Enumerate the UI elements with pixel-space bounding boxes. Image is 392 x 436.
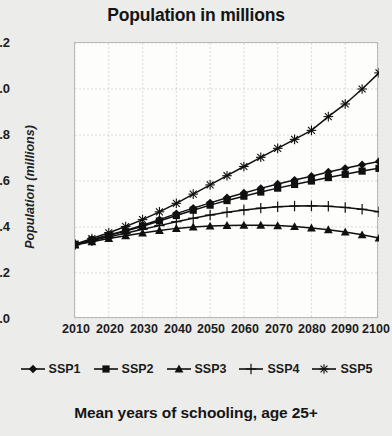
asterisk-marker-icon: [121, 222, 131, 232]
plus-marker-icon: [306, 201, 316, 211]
legend-label: SSP5: [340, 362, 372, 376]
legend-item-ssp3[interactable]: SSP3: [166, 362, 227, 376]
diamond-marker-icon: [20, 362, 46, 376]
asterisk-marker-icon: [188, 189, 198, 199]
y-axis-label: Population (millions): [23, 87, 37, 287]
asterisk-marker-icon: [155, 207, 165, 217]
square-marker-icon: [257, 188, 264, 195]
legend-label: SSP3: [195, 362, 227, 376]
asterisk-marker-icon: [324, 112, 334, 122]
plus-marker-icon: [222, 207, 232, 217]
y-tick-0: 0.0: [0, 311, 10, 326]
legend-item-ssp2[interactable]: SSP2: [93, 362, 154, 376]
asterisk-marker-icon: [256, 153, 266, 163]
legend-label: SSP2: [122, 362, 154, 376]
asterisk-marker-icon: [104, 228, 114, 238]
square-marker-icon: [240, 193, 247, 200]
asterisk-marker-icon: [205, 180, 215, 190]
square-marker-icon: [207, 202, 214, 209]
asterisk-marker-icon: [290, 135, 300, 145]
square-marker-icon: [102, 365, 109, 372]
legend-item-ssp1[interactable]: SSP1: [20, 362, 81, 376]
plot-area: [74, 42, 378, 318]
plus-marker-icon: [340, 202, 350, 212]
plus-marker-icon: [188, 213, 198, 223]
square-marker-icon: [223, 197, 230, 204]
square-marker-icon: [274, 185, 281, 192]
plus-marker-icon: [205, 210, 215, 220]
chart-caption: Mean years of schooling, age 25+: [0, 404, 392, 422]
square-marker-icon: [291, 181, 298, 188]
square-marker-icon: [375, 165, 379, 172]
data-series-layer: [75, 43, 379, 319]
y-tick-6: 1.2: [0, 35, 10, 50]
y-tick-5: 1.0: [0, 81, 10, 96]
asterisk-marker-icon: [311, 362, 337, 376]
plus-marker-icon: [238, 362, 264, 376]
legend-item-ssp5[interactable]: SSP5: [311, 362, 372, 376]
legend-item-ssp4[interactable]: SSP4: [238, 362, 299, 376]
square-marker-icon: [359, 168, 366, 175]
square-marker-icon: [308, 177, 315, 184]
plus-marker-icon: [289, 201, 299, 211]
triangle-marker-icon: [166, 362, 192, 376]
asterisk-marker-icon: [172, 199, 182, 209]
y-tick-4: 0.8: [0, 127, 10, 142]
legend: SSP1SSP2SSP3SSP4SSP5: [0, 362, 392, 376]
y-tick-1: 0.2: [0, 265, 10, 280]
plus-marker-icon: [246, 364, 256, 374]
plus-marker-icon: [272, 202, 282, 212]
asterisk-marker-icon: [239, 162, 249, 172]
plus-marker-icon: [374, 207, 379, 217]
asterisk-marker-icon: [138, 215, 148, 225]
asterisk-marker-icon: [357, 84, 367, 94]
diamond-marker-icon: [28, 365, 36, 373]
y-tick-2: 0.4: [0, 219, 10, 234]
asterisk-marker-icon: [320, 364, 330, 374]
x-tick-9: 2100: [354, 322, 392, 336]
chart-title: Population in millions: [0, 5, 392, 26]
square-marker-icon: [93, 362, 119, 376]
square-marker-icon: [325, 174, 332, 181]
square-marker-icon: [190, 207, 197, 214]
plus-marker-icon: [323, 201, 333, 211]
plus-marker-icon: [171, 217, 181, 227]
diamond-marker-icon: [375, 157, 379, 165]
asterisk-marker-icon: [87, 234, 97, 244]
asterisk-marker-icon: [222, 171, 232, 181]
plus-marker-icon: [239, 205, 249, 215]
y-tick-3: 0.6: [0, 173, 10, 188]
asterisk-marker-icon: [273, 144, 283, 154]
plus-marker-icon: [357, 204, 367, 214]
asterisk-marker-icon: [307, 126, 317, 136]
square-marker-icon: [342, 171, 349, 178]
population-chart-figure: Population in millions Population (milli…: [0, 0, 392, 436]
plus-marker-icon: [256, 203, 266, 213]
legend-label: SSP1: [49, 362, 81, 376]
asterisk-marker-icon: [340, 99, 350, 109]
legend-label: SSP4: [267, 362, 299, 376]
